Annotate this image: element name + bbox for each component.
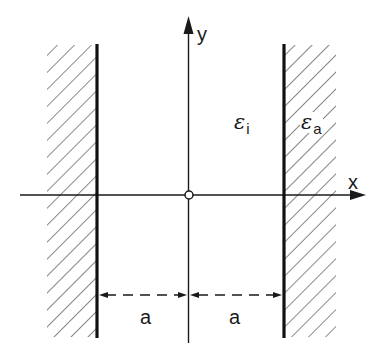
dimension-label-right: a [229,307,240,327]
arrowhead-icon [99,292,108,298]
epsilon-outer-label: εa [300,112,323,133]
x-axis-label: x [348,172,358,192]
diagram-svg [0,0,380,353]
arrowhead-icon [273,292,282,298]
epsilon-inner-label: εi [234,112,250,133]
arrowhead-icon [178,292,187,298]
left-hatched-region [47,45,96,337]
dimension-label-left: a [140,307,151,327]
y-axis-arrow-icon [184,16,194,34]
origin-marker [185,191,193,199]
right-hatched-region [285,45,336,337]
dimension-left [99,292,187,298]
dimension-right [190,292,282,298]
diagram-canvas: y x εi εa a a [0,0,380,353]
y-axis-label: y [197,24,207,44]
arrowhead-icon [190,292,199,298]
